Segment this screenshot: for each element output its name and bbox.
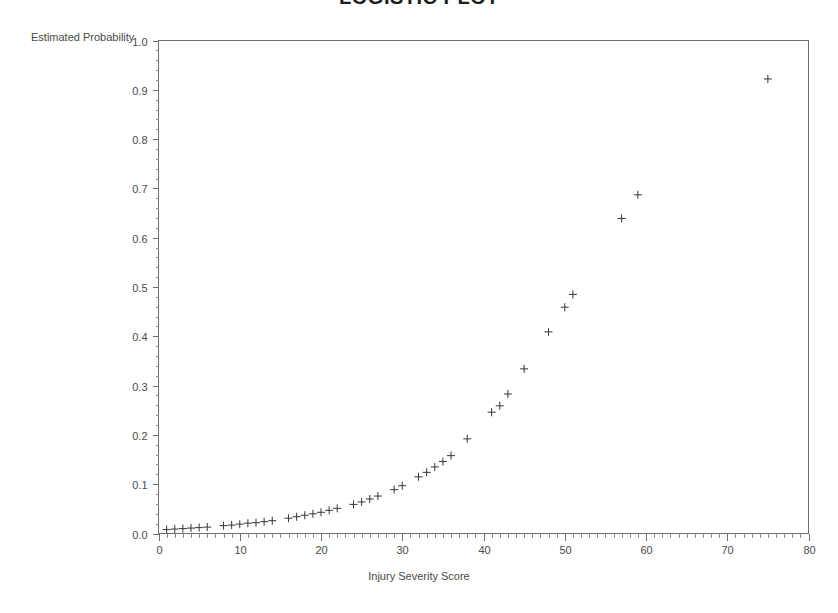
data-point-marker bbox=[187, 524, 195, 532]
data-point-marker bbox=[163, 526, 171, 534]
y-tick-label: 0.7 bbox=[132, 183, 147, 195]
data-point-marker bbox=[634, 191, 642, 199]
x-axis: 01020304050607080 bbox=[156, 534, 815, 556]
data-point-marker bbox=[244, 519, 252, 527]
data-point-marker bbox=[333, 504, 341, 512]
data-point-marker bbox=[220, 522, 228, 530]
data-point-marker bbox=[496, 402, 504, 410]
y-tick-label: 0.5 bbox=[132, 282, 147, 294]
data-point-marker bbox=[203, 523, 211, 531]
data-point-marker bbox=[260, 518, 268, 526]
y-tick-label: 0.1 bbox=[132, 479, 147, 491]
data-point-marker bbox=[268, 517, 276, 525]
data-point-marker bbox=[569, 290, 577, 298]
data-point-marker bbox=[520, 365, 528, 373]
data-point-marker bbox=[179, 525, 187, 533]
y-tick-label: 0.4 bbox=[132, 331, 147, 343]
data-point-marker bbox=[545, 328, 553, 336]
data-point-marker bbox=[618, 214, 626, 222]
data-points-layer bbox=[163, 75, 772, 534]
y-tick-label: 1.0 bbox=[132, 36, 147, 48]
x-tick-label: 40 bbox=[478, 544, 490, 556]
data-point-marker bbox=[447, 452, 455, 460]
data-point-marker bbox=[488, 408, 496, 416]
data-point-marker bbox=[764, 75, 772, 83]
data-point-marker bbox=[252, 519, 260, 527]
y-tick-label: 0.3 bbox=[132, 381, 147, 393]
data-point-marker bbox=[504, 390, 512, 398]
data-point-marker bbox=[317, 508, 325, 516]
x-tick-label: 70 bbox=[721, 544, 733, 556]
data-point-marker bbox=[374, 492, 382, 500]
data-point-marker bbox=[293, 513, 301, 521]
data-point-marker bbox=[350, 500, 358, 508]
scatter-plot-canvas: 0.00.10.20.30.40.50.60.70.80.91.0 010203… bbox=[0, 0, 838, 613]
y-tick-label: 0.8 bbox=[132, 134, 147, 146]
logistic-plot-figure: LOGISTIC PLOT Estimated Probability Inju… bbox=[0, 0, 838, 613]
y-axis: 0.00.10.20.30.40.50.60.70.80.91.0 bbox=[132, 36, 158, 541]
plot-frame-rect bbox=[159, 41, 809, 534]
data-point-marker bbox=[195, 524, 203, 532]
x-tick-label: 0 bbox=[156, 544, 162, 556]
data-point-marker bbox=[423, 468, 431, 476]
y-tick-label: 0.6 bbox=[132, 233, 147, 245]
data-point-marker bbox=[358, 498, 366, 506]
data-point-marker bbox=[171, 525, 179, 533]
x-tick-label: 30 bbox=[396, 544, 408, 556]
x-tick-label: 20 bbox=[315, 544, 327, 556]
x-tick-label: 50 bbox=[559, 544, 571, 556]
data-point-marker bbox=[431, 463, 439, 471]
data-point-marker bbox=[228, 521, 236, 529]
data-point-marker bbox=[301, 511, 309, 519]
y-tick-label: 0.0 bbox=[132, 529, 147, 541]
data-point-marker bbox=[439, 458, 447, 466]
data-point-marker bbox=[398, 482, 406, 490]
x-tick-label: 60 bbox=[640, 544, 652, 556]
x-tick-label: 80 bbox=[803, 544, 815, 556]
data-point-marker bbox=[285, 514, 293, 522]
data-point-marker bbox=[366, 495, 374, 503]
data-point-marker bbox=[236, 520, 244, 528]
y-tick-label: 0.2 bbox=[132, 430, 147, 442]
data-point-marker bbox=[390, 486, 398, 494]
data-point-marker bbox=[463, 435, 471, 443]
data-point-marker bbox=[309, 510, 317, 518]
plot-frame bbox=[159, 41, 809, 534]
data-point-marker bbox=[415, 473, 423, 481]
x-tick-label: 10 bbox=[234, 544, 246, 556]
data-point-marker bbox=[325, 506, 333, 514]
data-point-marker bbox=[561, 303, 569, 311]
y-tick-label: 0.9 bbox=[132, 85, 147, 97]
